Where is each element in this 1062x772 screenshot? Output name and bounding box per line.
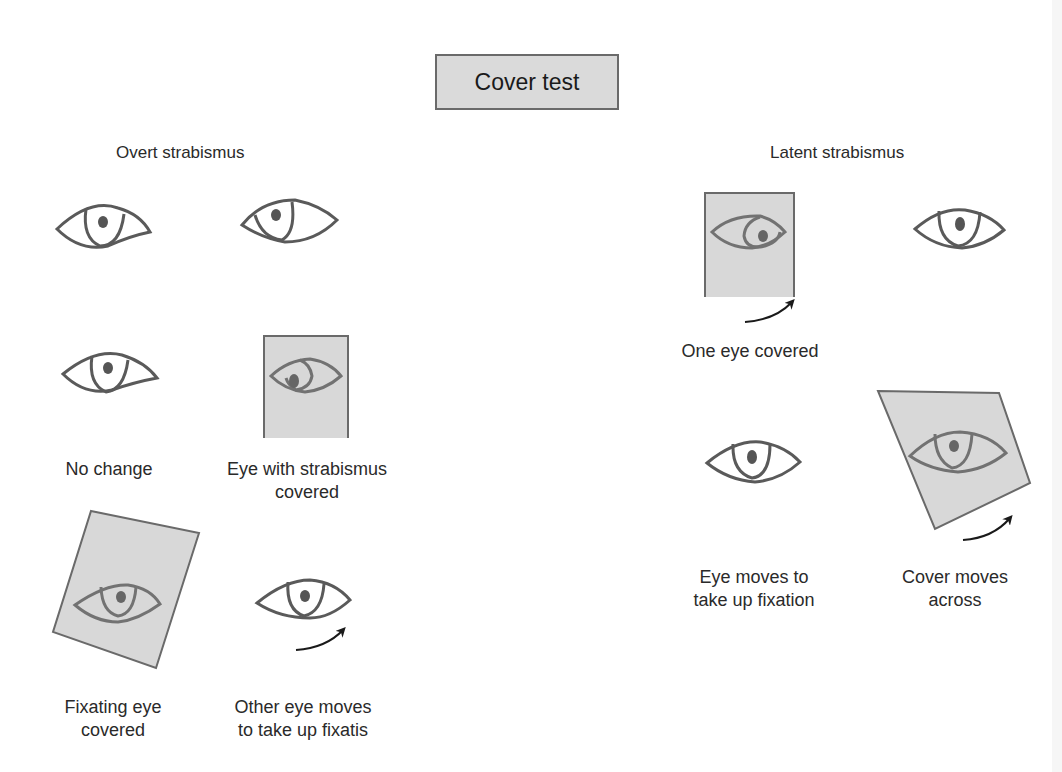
arrow-icon [745, 302, 792, 322]
caption-cover-moves-across: Cover moves across [902, 566, 1008, 612]
cover-test-diagram: Cover test Overt strabismus Latent strab… [0, 0, 1062, 772]
eye-icon [707, 442, 800, 482]
caption-one-eye-covered: One eye covered [681, 340, 818, 363]
caption-line: across [902, 589, 1008, 612]
caption-line: Eye moves to [693, 566, 814, 589]
eye-icon [57, 206, 150, 248]
caption-line: take up fixation [693, 589, 814, 612]
diagram-graphics [0, 0, 1062, 772]
eye-icon [257, 580, 350, 618]
arrow-icon [296, 630, 343, 650]
caption-text: One eye covered [681, 341, 818, 361]
caption-line: Fixating eye [64, 696, 161, 719]
caption-line: to take up fixatis [234, 719, 371, 742]
caption-eye-moves-to-take-up-fixation: Eye moves to take up fixation [693, 566, 814, 612]
caption-other-eye-moves: Other eye moves to take up fixatis [234, 696, 371, 742]
eye-cover [53, 511, 199, 668]
caption-fixating-eye-covered: Fixating eye covered [64, 696, 161, 742]
caption-line: covered [227, 481, 387, 504]
caption-line: Other eye moves [234, 696, 371, 719]
caption-no-change: No change [65, 458, 152, 481]
caption-line: Eye with strabismus [227, 458, 387, 481]
eye-icon [915, 210, 1004, 248]
caption-line: Cover moves [902, 566, 1008, 589]
arrow-icon [963, 518, 1010, 540]
caption-eye-with-strabismus-covered: Eye with strabismus covered [227, 458, 387, 504]
caption-line: covered [64, 719, 161, 742]
eye-cover [878, 391, 1030, 529]
caption-text: No change [65, 459, 152, 479]
eye-icon [242, 200, 337, 242]
eye-icon [63, 354, 157, 392]
